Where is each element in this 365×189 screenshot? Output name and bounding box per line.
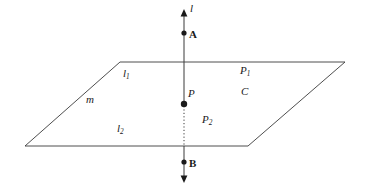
label-line-l2-subscript: 2	[120, 128, 124, 136]
label-point-c: C	[241, 86, 248, 97]
label-region-p2-subscript: 2	[209, 119, 213, 127]
point-a-dot	[181, 30, 186, 35]
point-p-dot	[181, 101, 187, 107]
label-line-l1-subscript: 1	[126, 73, 130, 81]
label-region-p1-subscript: 1	[247, 70, 251, 78]
label-point-a: A	[189, 29, 197, 40]
label-point-b: B	[189, 158, 196, 169]
label-region-p2: P2	[202, 114, 212, 127]
point-b-dot	[181, 159, 186, 164]
label-region-p1: P1	[240, 65, 250, 78]
label-line-m: m	[86, 94, 94, 105]
geometry-diagram	[0, 0, 365, 189]
label-region-p1-base: P	[240, 64, 247, 76]
line-l-bottom-arrowhead	[181, 176, 188, 184]
label-region-p2-base: P	[202, 113, 209, 125]
label-line-l: l	[190, 3, 193, 14]
label-line-l1: l1	[123, 68, 130, 81]
label-point-p: P	[188, 88, 195, 99]
line-l-top-arrowhead	[181, 9, 188, 17]
label-line-l2: l2	[117, 123, 124, 136]
